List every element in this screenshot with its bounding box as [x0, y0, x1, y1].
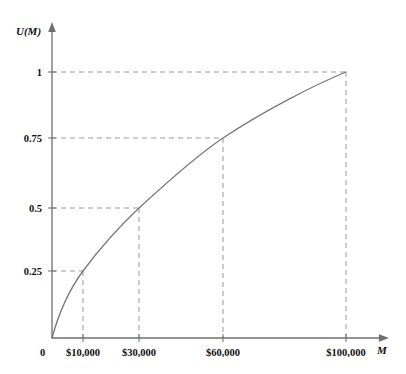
y-axis-arrow-icon — [48, 22, 56, 32]
vertical-guide-lines — [83, 72, 346, 338]
x-axis — [52, 334, 389, 342]
x-tick-label-100000: $100,000 — [326, 347, 365, 358]
horizontal-guide-lines — [52, 72, 346, 271]
utility-curve — [52, 72, 346, 338]
x-tick-label-60000: $60,000 — [206, 347, 240, 358]
x-axis-title: M — [377, 344, 387, 356]
y-tick-label-05: 0.5 — [10, 203, 42, 214]
y-axis-title: U(M) — [16, 25, 41, 37]
x-axis-arrow-icon — [379, 334, 389, 342]
y-tick-label-1: 1 — [10, 67, 42, 78]
utility-function-chart: U(M) M 1 0.75 0.5 0.25 0 $10,000 $30,000… — [0, 0, 406, 374]
chart-plot-area — [0, 0, 406, 374]
y-tick-label-025: 0.25 — [10, 266, 42, 277]
origin-label: 0 — [40, 347, 45, 358]
x-tick-label-10000: $10,000 — [66, 347, 100, 358]
x-tick-label-30000: $30,000 — [122, 347, 156, 358]
y-axis — [48, 22, 56, 338]
y-tick-label-075: 0.75 — [10, 133, 42, 144]
